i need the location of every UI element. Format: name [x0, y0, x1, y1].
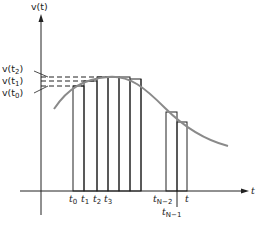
label-tn1: tN−1 [162, 207, 181, 217]
y-axis-label: v(t) [31, 2, 48, 12]
label-t1: t1 [81, 194, 89, 204]
x-axis-arrow-icon [241, 189, 249, 194]
bar-4 [119, 77, 130, 191]
label-v-t1: v(t1) [2, 76, 23, 86]
label-t: t [185, 194, 189, 204]
label-tn2: tN−2 [153, 194, 172, 204]
y-axis-arrow-icon [39, 14, 44, 22]
label-t0: t0 [69, 194, 77, 204]
x-axis-label: t [251, 186, 255, 196]
label-t2: t2 [93, 194, 101, 204]
bar-n2 [166, 112, 177, 191]
label-v-t2: v(t2) [2, 64, 23, 74]
label-t3: t3 [104, 194, 112, 204]
bar-3 [108, 77, 119, 191]
bar-0 [73, 86, 84, 191]
bar-n1 [177, 122, 187, 191]
bar-1 [84, 81, 97, 191]
riemann-bars [73, 77, 187, 207]
bar-2 [97, 77, 108, 191]
label-v-t0: v(t0) [2, 88, 23, 98]
riemann-diagram [0, 0, 264, 235]
axes [20, 14, 249, 215]
bar-5 [130, 79, 141, 191]
